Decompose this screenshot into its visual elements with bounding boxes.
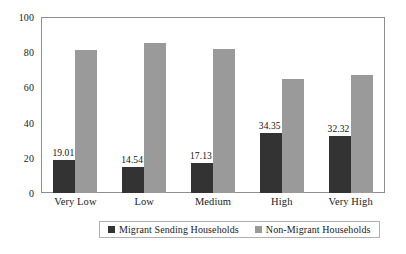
bar-group: 34.35 [260,17,304,193]
legend-item: Migrant Sending Households [108,224,239,235]
bar-value-label: 34.35 [259,121,281,131]
y-tick-label: 100 [19,12,34,23]
y-axis: 020406080100 [0,17,41,193]
bar-migrant-sending [329,136,351,193]
x-axis-label: Medium [195,196,231,207]
x-axis-category-labels: Very LowLowMediumHighVery High [41,196,385,214]
legend-swatch-icon [108,226,115,233]
bar-migrant-sending [53,160,75,193]
bar-non-migrant [351,75,373,193]
bar-non-migrant [213,49,235,193]
bar-migrant-sending [122,167,144,193]
legend-label: Non-Migrant Households [266,224,371,235]
bar-group: 14.54 [122,17,166,193]
bar-value-label: 14.54 [121,155,143,165]
bar-non-migrant [282,79,304,193]
bar-migrant-sending [260,133,282,193]
legend-label: Migrant Sending Households [119,224,239,235]
x-axis-label: Very Low [54,196,97,207]
bars-layer: 19.0114.5417.1334.3532.32 [41,17,385,193]
y-tick-label: 20 [24,152,34,163]
chart-legend: Migrant Sending HouseholdsNon-Migrant Ho… [99,221,380,238]
x-axis-label: Very High [328,196,372,207]
bar-value-label: 17.13 [190,151,212,161]
y-tick-label: 40 [24,117,34,128]
legend-item: Non-Migrant Households [255,224,371,235]
bar-non-migrant [75,50,97,193]
y-tick-label: 80 [24,47,34,58]
y-tick-label: 60 [24,82,34,93]
bar-value-label: 19.01 [52,148,74,158]
legend-swatch-icon [255,226,262,233]
bar-group: 19.01 [53,17,97,193]
bar-value-label: 32.32 [328,124,350,134]
bar-group: 17.13 [191,17,235,193]
bar-group: 32.32 [329,17,373,193]
y-tick-label: 0 [29,188,34,199]
bar-migrant-sending [191,163,213,193]
bar-chart: 020406080100 19.0114.5417.1334.3532.32 V… [0,0,406,254]
x-axis-label: Low [134,196,154,207]
x-axis-label: High [271,196,292,207]
bar-non-migrant [144,43,166,193]
